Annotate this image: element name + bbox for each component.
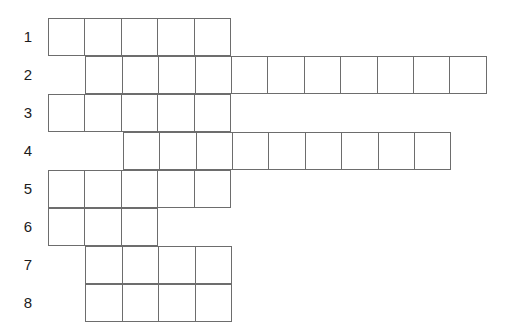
grid-row-2: [85, 56, 496, 94]
grid-cell[interactable]: [84, 170, 121, 208]
grid-cell[interactable]: [121, 94, 158, 132]
grid-cell[interactable]: [122, 284, 159, 322]
grid-cell[interactable]: [195, 246, 232, 284]
grid-cell[interactable]: [341, 132, 378, 170]
grid-cell[interactable]: [413, 56, 450, 94]
grid-cell[interactable]: [195, 284, 232, 322]
grid-cell[interactable]: [268, 132, 305, 170]
grid-cell[interactable]: [377, 56, 414, 94]
grid-row-3: [48, 94, 235, 132]
grid-row-6: [48, 208, 160, 246]
grid-cell[interactable]: [48, 94, 85, 132]
grid-cell[interactable]: [304, 56, 341, 94]
grid-cell[interactable]: [194, 170, 231, 208]
grid-row-7: [85, 246, 235, 284]
grid-cell[interactable]: [231, 56, 268, 94]
grid-cell[interactable]: [121, 170, 158, 208]
row-label-7: 7: [12, 257, 32, 272]
grid-row-1: [48, 18, 235, 56]
grid-cell[interactable]: [121, 208, 158, 246]
row-label-3: 3: [12, 105, 32, 120]
grid-cell[interactable]: [414, 132, 451, 170]
grid-cell[interactable]: [48, 170, 85, 208]
row-label-5: 5: [12, 181, 32, 196]
grid-cell[interactable]: [267, 56, 304, 94]
grid-cell[interactable]: [158, 56, 195, 94]
grid-cell[interactable]: [232, 132, 269, 170]
row-label-8: 8: [12, 295, 32, 310]
crossword-grid: 12345678: [0, 0, 508, 330]
grid-cell[interactable]: [194, 94, 231, 132]
row-label-2: 2: [12, 67, 32, 82]
grid-cell[interactable]: [85, 246, 122, 284]
grid-cell[interactable]: [122, 56, 159, 94]
grid-cell[interactable]: [195, 56, 232, 94]
grid-cell[interactable]: [121, 18, 158, 56]
grid-row-8: [85, 284, 235, 322]
grid-cell[interactable]: [84, 94, 121, 132]
grid-cell[interactable]: [340, 56, 377, 94]
grid-cell[interactable]: [84, 208, 121, 246]
grid-row-4: [123, 132, 460, 170]
row-label-4: 4: [12, 143, 32, 158]
grid-cell[interactable]: [449, 56, 486, 94]
grid-cell[interactable]: [378, 132, 415, 170]
grid-cell[interactable]: [159, 132, 196, 170]
grid-cell[interactable]: [123, 132, 160, 170]
grid-cell[interactable]: [122, 246, 159, 284]
grid-cell[interactable]: [48, 18, 85, 56]
grid-cell[interactable]: [157, 170, 194, 208]
grid-row-5: [48, 170, 235, 208]
grid-cell[interactable]: [84, 18, 121, 56]
grid-cell[interactable]: [196, 132, 233, 170]
grid-cell[interactable]: [157, 94, 194, 132]
grid-cell[interactable]: [158, 284, 195, 322]
row-label-6: 6: [12, 219, 32, 234]
grid-cell[interactable]: [158, 246, 195, 284]
grid-cell[interactable]: [305, 132, 342, 170]
grid-cell[interactable]: [48, 208, 85, 246]
grid-cell[interactable]: [85, 56, 122, 94]
grid-cell[interactable]: [85, 284, 122, 322]
grid-cell[interactable]: [194, 18, 231, 56]
grid-cell[interactable]: [157, 18, 194, 56]
row-label-1: 1: [12, 29, 32, 44]
